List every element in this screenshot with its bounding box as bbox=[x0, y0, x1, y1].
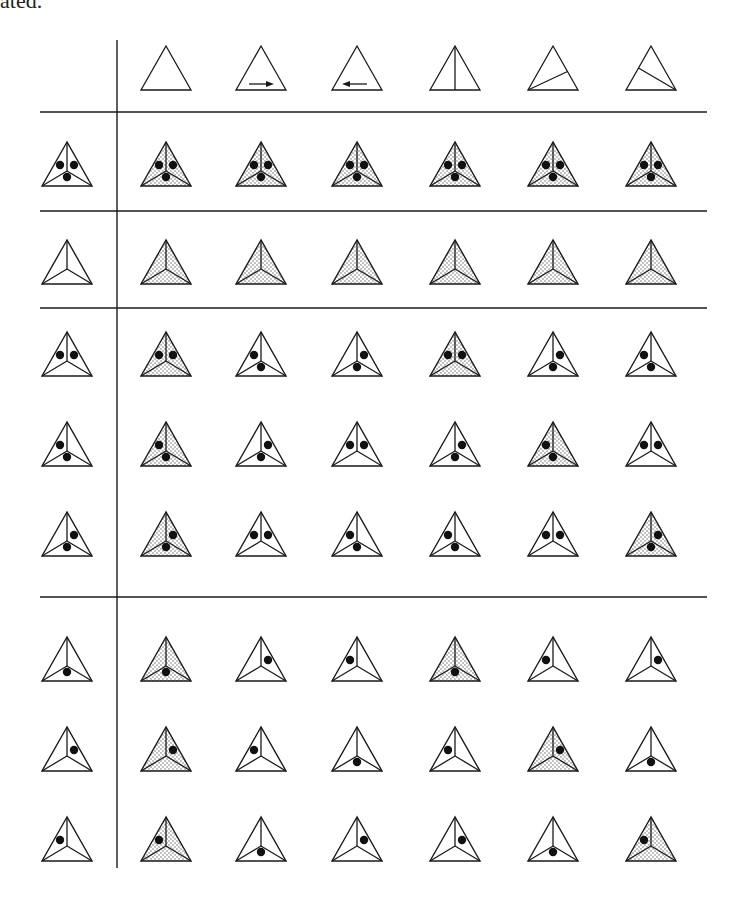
cell-triangle-icon bbox=[141, 240, 191, 284]
dot-l bbox=[444, 351, 452, 359]
cell-triangle-icon bbox=[236, 332, 286, 376]
dot-l bbox=[155, 351, 163, 359]
cell-triangle-icon bbox=[528, 332, 578, 376]
cell-triangle-icon bbox=[430, 727, 480, 771]
dot-r bbox=[458, 161, 466, 169]
cell-triangle-icon bbox=[332, 727, 382, 771]
dot-r bbox=[169, 351, 177, 359]
cell-triangle-icon bbox=[141, 817, 191, 861]
dot-r bbox=[360, 441, 368, 449]
cell-triangle-icon bbox=[626, 817, 676, 861]
dot-b bbox=[162, 453, 170, 461]
dot-b bbox=[451, 453, 459, 461]
dot-l bbox=[155, 161, 163, 169]
dot-b bbox=[647, 173, 655, 181]
dot-b bbox=[353, 758, 361, 766]
dot-r bbox=[654, 161, 662, 169]
dot-b bbox=[63, 668, 71, 676]
table-row-r3 bbox=[42, 332, 676, 376]
dot-b bbox=[647, 758, 655, 766]
dot-r bbox=[556, 531, 564, 539]
row-header-triangle-icon bbox=[42, 727, 92, 771]
dot-r bbox=[654, 531, 662, 539]
dot-r bbox=[360, 161, 368, 169]
cell-triangle-icon bbox=[332, 817, 382, 861]
dot-b bbox=[257, 173, 265, 181]
dot-r bbox=[360, 351, 368, 359]
dot-b bbox=[257, 848, 265, 856]
dot-r bbox=[556, 351, 564, 359]
cell-triangle-icon bbox=[626, 727, 676, 771]
dot-l bbox=[444, 746, 452, 754]
table-row-r1 bbox=[42, 142, 676, 186]
dot-l bbox=[346, 441, 354, 449]
row-header-triangle-icon bbox=[42, 637, 92, 681]
row-header-triangle-icon bbox=[42, 817, 92, 861]
dot-r bbox=[556, 161, 564, 169]
dot-b bbox=[647, 543, 655, 551]
dot-l bbox=[155, 836, 163, 844]
column-header-arrow-right-icon bbox=[236, 46, 286, 90]
dot-r bbox=[264, 656, 272, 664]
cell-triangle-icon bbox=[236, 422, 286, 466]
column-header-vertical-split-icon bbox=[430, 46, 480, 90]
cell-triangle-icon bbox=[430, 422, 480, 466]
cell-triangle-icon bbox=[332, 512, 382, 556]
dot-b bbox=[451, 173, 459, 181]
cell-triangle-icon bbox=[430, 142, 480, 186]
cell-triangle-icon bbox=[626, 142, 676, 186]
dot-l bbox=[155, 441, 163, 449]
table-row-r7 bbox=[42, 727, 676, 771]
dot-r bbox=[458, 441, 466, 449]
dot-b bbox=[549, 173, 557, 181]
cell-triangle-icon bbox=[528, 817, 578, 861]
cell-triangle-icon bbox=[236, 727, 286, 771]
dot-l bbox=[346, 656, 354, 664]
dot-l bbox=[250, 351, 258, 359]
table-row-r4 bbox=[42, 422, 676, 466]
dot-l bbox=[640, 836, 648, 844]
table-row-r5 bbox=[42, 512, 676, 556]
dot-r bbox=[70, 161, 78, 169]
dot-r bbox=[264, 441, 272, 449]
dot-b bbox=[353, 363, 361, 371]
column-header-plain-icon bbox=[141, 46, 191, 90]
dot-l bbox=[640, 441, 648, 449]
row-header-triangle-icon bbox=[42, 240, 92, 284]
dot-r bbox=[264, 531, 272, 539]
dot-l bbox=[444, 531, 452, 539]
dot-l bbox=[250, 531, 258, 539]
cell-triangle-icon bbox=[236, 512, 286, 556]
cell-triangle-icon bbox=[626, 512, 676, 556]
dot-b bbox=[353, 173, 361, 181]
dot-r bbox=[360, 836, 368, 844]
cell-triangle-icon bbox=[236, 817, 286, 861]
dot-l bbox=[346, 531, 354, 539]
dot-r bbox=[556, 746, 564, 754]
dot-l bbox=[640, 351, 648, 359]
cell-triangle-icon bbox=[528, 142, 578, 186]
cell-triangle-icon bbox=[236, 240, 286, 284]
row-header-triangle-icon bbox=[42, 512, 92, 556]
dot-r bbox=[264, 161, 272, 169]
cell-triangle-icon bbox=[626, 422, 676, 466]
table-row-r2 bbox=[42, 240, 676, 284]
dot-b bbox=[63, 543, 71, 551]
dot-r bbox=[169, 531, 177, 539]
dot-b bbox=[63, 453, 71, 461]
dot-l bbox=[542, 531, 550, 539]
cell-triangle-icon bbox=[236, 142, 286, 186]
dot-l bbox=[250, 746, 258, 754]
dot-l bbox=[56, 351, 64, 359]
dot-r bbox=[654, 656, 662, 664]
column-header-arrow-left-icon bbox=[332, 46, 382, 90]
cell-triangle-icon bbox=[236, 637, 286, 681]
dot-l bbox=[640, 161, 648, 169]
cell-triangle-icon bbox=[528, 637, 578, 681]
dot-b bbox=[353, 543, 361, 551]
dot-l bbox=[56, 836, 64, 844]
cell-triangle-icon bbox=[141, 332, 191, 376]
row-header-triangle-icon bbox=[42, 422, 92, 466]
cell-triangle-icon bbox=[332, 142, 382, 186]
dot-l bbox=[346, 161, 354, 169]
